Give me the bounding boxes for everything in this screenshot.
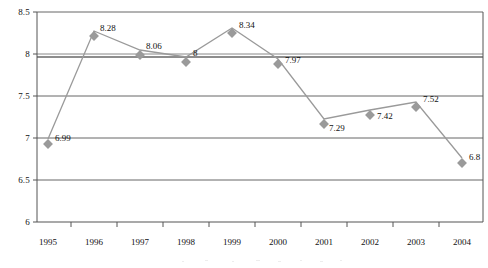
y-tick-label: 8.5 [2,8,30,17]
y-tick-label: 6 [2,218,30,227]
y-tick-label: 6.5 [2,176,30,185]
x-tick-label: 1998 [166,238,206,247]
data-point-label: 7.97 [285,56,301,65]
y-tick-label: 7 [2,134,30,143]
data-point-label: 6.8 [469,153,480,162]
plot-canvas [0,0,488,268]
data-point-label: 8.28 [100,24,116,33]
y-tick-label: 7.5 [2,92,30,101]
line-chart: 8.5 8 7.5 7 6.5 6 1995 1996 1997 1998 19… [0,0,488,268]
x-tick-label: 2000 [258,238,298,247]
data-point-label: 7.42 [377,112,393,121]
x-tick-label: 2003 [396,238,436,247]
data-point-label: 6.99 [55,134,71,143]
data-point-label: 8.06 [146,42,162,51]
data-point-label: 7.52 [423,95,439,104]
x-tick-label: 2001 [304,238,344,247]
gridlines [37,12,483,180]
y-axis-ticks [33,12,37,222]
x-tick-label: 2002 [350,238,390,247]
y-tick-label: 8 [2,50,30,59]
data-point-label: 8.34 [239,21,255,30]
data-series [43,28,467,168]
x-tick-label: 2004 [442,238,482,247]
x-tick-label: 1997 [120,238,160,247]
data-markers [43,28,467,168]
data-point-label: 8 [193,49,198,58]
data-point-label: 7.29 [329,124,345,133]
x-axis-ticks [71,222,439,227]
x-tick-label: 1999 [212,238,252,247]
x-tick-label: 1995 [28,238,68,247]
plot-frame [37,12,483,222]
x-tick-label: 1996 [74,238,114,247]
